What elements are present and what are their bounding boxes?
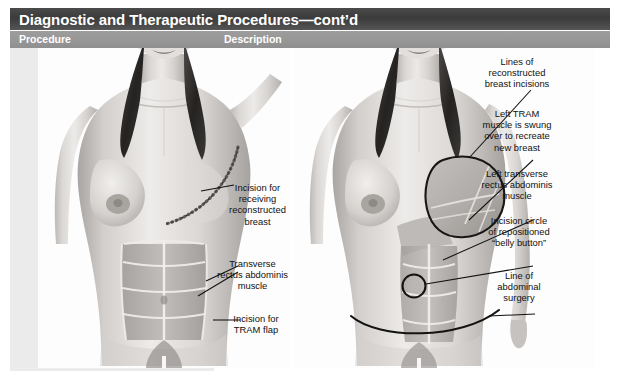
callout-transverse-rectus-abdominis-muscle: Transverse rectus abdominis muscle [200, 258, 305, 292]
callout-incision-for-tram-flap: Incision for TRAM flap [210, 313, 302, 335]
column-header-procedure: Procedure [19, 33, 71, 45]
page-title-bar: Diagnostic and Therapeutic Procedures—co… [10, 8, 610, 30]
table-column-header: Procedure Description [10, 31, 610, 48]
figure-b-svg [293, 48, 595, 368]
figure-b-illustration [293, 48, 595, 368]
table-body: A. B. Incision for receiving reconstruct… [10, 48, 610, 381]
callout-lines-of-reconstructed-breast-incisions: Lines of reconstructed breast incisions [465, 56, 569, 90]
column-header-description: Description [224, 33, 282, 45]
callout-left-transverse-rectus-abdominis-muscle: Left transverse rectus abdominis muscle [462, 168, 572, 202]
textbook-page: Diagnostic and Therapeutic Procedures—co… [0, 0, 622, 391]
rectus-abdominis-muscle-group [121, 241, 207, 342]
callout-line-of-abdominal-surgery: Line of abdominal surgery [472, 270, 566, 304]
remaining-rectus-abdominis [400, 244, 458, 344]
callout-incision-receiving-reconstructed-breast: Incision for receiving reconstructed bre… [210, 182, 305, 227]
page-title: Diagnostic and Therapeutic Procedures—co… [10, 11, 358, 28]
callout-left-tram-muscle-swung-over: Left TRAM muscle is swung over to recrea… [462, 108, 572, 153]
callout-incision-circle-repositioned-belly-button: Incision circle of repositioned “belly b… [465, 215, 573, 249]
